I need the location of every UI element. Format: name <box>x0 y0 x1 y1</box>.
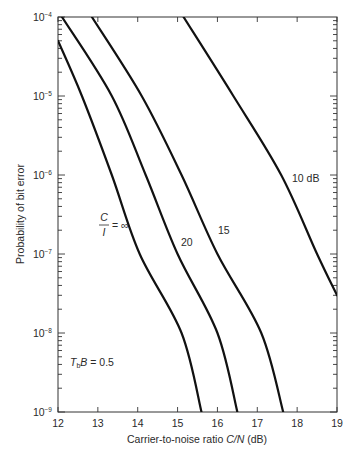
curve-series-1 <box>62 17 237 412</box>
tbb-annotation: TbB = 0.5 <box>70 356 114 369</box>
curve-label-10db: 10 dB <box>292 172 319 184</box>
y-axis-title: Probability of bit error <box>14 164 26 264</box>
y-tick-label: 10−7 <box>33 248 52 260</box>
x-tick-label: 19 <box>331 417 343 429</box>
svg-text:I: I <box>103 226 106 238</box>
x-axis-tick-labels: 1213141516171819 <box>52 417 343 429</box>
y-tick-label: 10−8 <box>33 327 52 339</box>
svg-text:= ∞: = ∞ <box>112 219 129 231</box>
x-tick-label: 14 <box>132 417 144 429</box>
y-tick-label: 10−9 <box>33 406 52 418</box>
curve-label-20: 20 <box>181 236 193 248</box>
curve-series-3 <box>184 17 337 295</box>
x-tick-label: 16 <box>212 417 224 429</box>
x-tick-label: 12 <box>52 417 64 429</box>
svg-text:C: C <box>100 211 108 223</box>
x-tick-label: 17 <box>251 417 263 429</box>
y-axis-tick-labels: 10−410−510−610−710−810−9 <box>33 11 52 418</box>
x-tick-label: 15 <box>172 417 184 429</box>
ber-chart: 10−410−510−610−710−810−9 121314151617181… <box>0 0 355 456</box>
y-tick-label: 10−6 <box>33 169 52 181</box>
y-tick-label: 10−5 <box>33 90 52 102</box>
x-axis-title: Carrier-to-noise ratio C/N (dB) <box>127 433 267 445</box>
x-tick-label: 18 <box>291 417 303 429</box>
y-tick-label: 10−4 <box>33 11 52 23</box>
curve-label-15: 15 <box>218 224 230 236</box>
x-tick-label: 13 <box>92 417 104 429</box>
